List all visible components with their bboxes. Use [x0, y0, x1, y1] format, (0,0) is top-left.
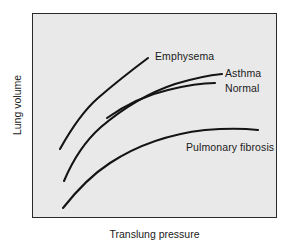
- curve-label-emphysema: Emphysema: [155, 50, 214, 62]
- x-axis-label: Translung pressure: [32, 228, 277, 240]
- figure-container: Emphysema Asthma Normal Pulmonary fibros…: [0, 0, 294, 250]
- y-axis-label: Lung volume: [11, 60, 23, 150]
- curve-label-pulmonary-fibrosis: Pulmonary fibrosis: [186, 141, 274, 153]
- curve-label-normal: Normal: [225, 82, 259, 94]
- plot-frame: [32, 13, 277, 218]
- curve-label-asthma: Asthma: [225, 67, 261, 79]
